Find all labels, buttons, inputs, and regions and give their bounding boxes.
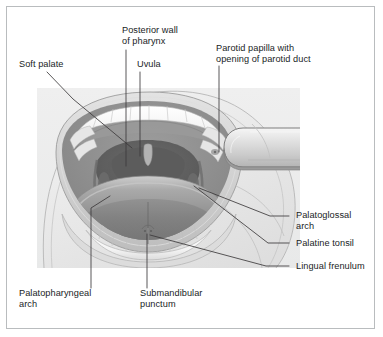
tongue-depressor	[224, 128, 316, 170]
label-parotid-papilla: Parotid papilla with opening of parotid …	[216, 43, 311, 66]
label-palatine-tonsil: Palatine tonsil	[296, 238, 354, 249]
parotid-papilla	[211, 149, 219, 155]
oral-cavity-illustration	[0, 0, 383, 337]
label-uvula: Uvula	[137, 59, 161, 70]
label-soft-palate: Soft palate	[19, 59, 63, 70]
label-palatoglossal-arch: Palatoglossal arch	[296, 210, 351, 233]
label-lingual-frenulum: Lingual frenulum	[296, 261, 365, 272]
label-posterior-wall-of-pharynx: Posterior wall of pharynx	[122, 25, 178, 48]
anatomy-figure: Soft palate Posterior wall of pharynx Uv…	[0, 0, 383, 337]
label-submandibular-punctum: Submandibular punctum	[140, 288, 202, 311]
label-palatopharyngeal-arch: Palatopharyngeal arch	[19, 288, 91, 311]
